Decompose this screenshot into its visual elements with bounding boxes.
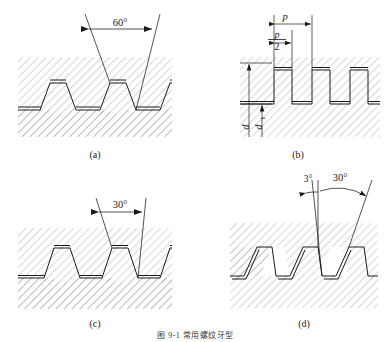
panel-d-small-angle-label: 3°	[304, 174, 313, 184]
panel-c-material	[18, 228, 172, 309]
panel-c-angle-label: 30°	[113, 199, 128, 210]
panel-b-half-pitch-numerator: p	[274, 29, 280, 40]
panel-b-minor-diameter-label: d	[253, 124, 264, 130]
panel-b-minor-diameter-subscript: 1	[259, 116, 267, 120]
panel-d-large-angle-label: 30°	[333, 172, 348, 183]
panel-a-angle-label: 60°	[113, 17, 128, 28]
panel-a-label: (a)	[89, 149, 100, 161]
panel-b-half-pitch-denominator: 2	[275, 41, 280, 52]
figure-caption: 图 9-1 常用螺纹牙型	[0, 329, 391, 342]
thread-profiles-figure: 60° (a)	[0, 0, 391, 342]
panel-b-label: (b)	[292, 149, 304, 161]
panel-b-pitch-label: p	[281, 11, 287, 22]
panel-a-material	[18, 57, 172, 137]
panel-b-major-diameter-label: d	[240, 124, 251, 130]
